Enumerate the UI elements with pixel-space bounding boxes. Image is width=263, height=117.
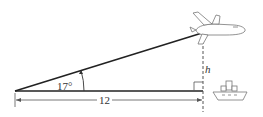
line-of-sight xyxy=(15,33,202,91)
dimension-arrow-left xyxy=(16,98,21,102)
diagram-canvas xyxy=(0,0,263,117)
ship-icon xyxy=(213,81,247,100)
distance-label: 12 xyxy=(97,95,112,106)
triangle-diagram: 17° h 12 xyxy=(0,0,263,117)
height-label: h xyxy=(205,64,211,75)
right-angle-marker xyxy=(194,82,203,91)
airplane-icon xyxy=(190,12,245,44)
angle-label: 17° xyxy=(57,81,72,92)
dimension-arrow-right xyxy=(197,98,202,102)
